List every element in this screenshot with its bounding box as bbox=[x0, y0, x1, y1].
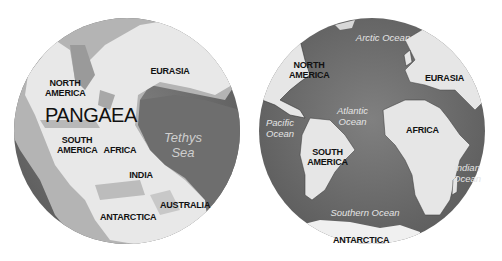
label-india-left: INDIA bbox=[126, 170, 156, 180]
label-africa-left: AFRICA bbox=[100, 145, 140, 155]
label-southern-ocean: Southern Ocean bbox=[325, 207, 405, 218]
label-north-america-left: NORTH AMERICA bbox=[45, 78, 85, 98]
label-atlantic-ocean: Atlantic Ocean bbox=[330, 105, 375, 127]
label-eurasia-right: EURASIA bbox=[422, 73, 467, 83]
label-north-america-right: NORTH AMERICA bbox=[289, 60, 329, 80]
label-south-america-right: SOUTH AMERICA bbox=[305, 147, 350, 167]
label-tethys-sea: Tethys Sea bbox=[162, 130, 204, 160]
label-australia-left: AUSTRALIA bbox=[160, 200, 210, 210]
label-eurasia-left: EURASIA bbox=[150, 66, 190, 76]
label-arctic-ocean: Arctic Ocean bbox=[353, 32, 413, 43]
label-pacific-ocean: Pacific Ocean bbox=[260, 117, 300, 139]
label-africa-right: AFRICA bbox=[400, 125, 445, 135]
label-south-america-left: SOUTH AMERICA bbox=[57, 135, 97, 155]
pangaea-title: PANGAEA bbox=[45, 104, 137, 127]
label-antarctica-right: ANTARCTICA bbox=[333, 235, 388, 245]
label-indian-ocean: Indian Ocean bbox=[447, 162, 487, 184]
label-antarctica-left: ANTARCTICA bbox=[100, 212, 150, 222]
